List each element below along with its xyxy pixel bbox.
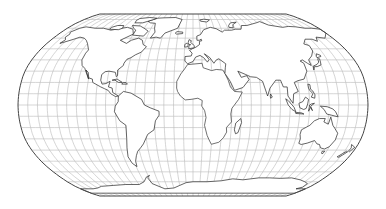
region-iceland (175, 32, 183, 34)
region-svalbard (200, 19, 210, 22)
world-map (0, 0, 386, 209)
